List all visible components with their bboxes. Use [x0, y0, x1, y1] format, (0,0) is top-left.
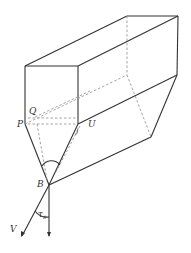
hidden-edges: [25, 16, 151, 180]
diagram-canvas: Q P U J B V τ s: [0, 0, 191, 253]
back-right-slant: [151, 75, 177, 137]
label-u: U: [88, 119, 96, 129]
label-v: V: [10, 224, 18, 234]
v-line: [22, 185, 49, 236]
label-tau-sub: s: [43, 213, 46, 220]
label-q: Q: [29, 106, 37, 116]
trough-diagram: Q P U J B V τ s: [0, 0, 191, 253]
label-p: P: [16, 119, 24, 129]
front-v-bottom: [25, 124, 78, 185]
back-right-edge: [177, 16, 178, 75]
apex-edge: [49, 137, 151, 185]
right-box-bottom-edge: [78, 75, 177, 124]
top-face: [25, 16, 178, 66]
vertical-arrow-icon: [47, 232, 51, 237]
label-b: B: [36, 179, 44, 189]
